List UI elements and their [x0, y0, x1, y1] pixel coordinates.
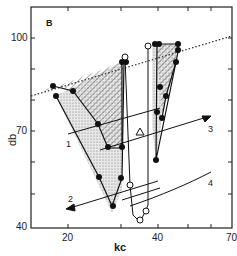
panel-label: B	[46, 18, 53, 28]
plot-frame	[31, 7, 232, 228]
x-axis-label: kc	[114, 241, 126, 253]
delta-triangle	[136, 128, 144, 135]
open-trace-2	[146, 46, 148, 210]
annotation-1: 1	[66, 139, 71, 149]
x-tick-40: 40	[152, 233, 163, 243]
y-tick-40: 40	[16, 222, 27, 232]
open-trace-1	[125, 58, 133, 215]
open-points	[122, 43, 151, 223]
chart-plot	[0, 0, 237, 256]
annotation-3: 3	[208, 124, 213, 134]
curve-4	[130, 172, 211, 206]
x-tick-70: 70	[226, 233, 237, 243]
dotted-trend-line	[31, 36, 232, 96]
annotation-2: 2	[68, 194, 73, 204]
y-tick-100: 100	[11, 33, 28, 43]
x-tick-20: 20	[62, 233, 73, 243]
y-tick-70: 70	[16, 126, 27, 136]
annotation-4: 4	[208, 178, 213, 188]
